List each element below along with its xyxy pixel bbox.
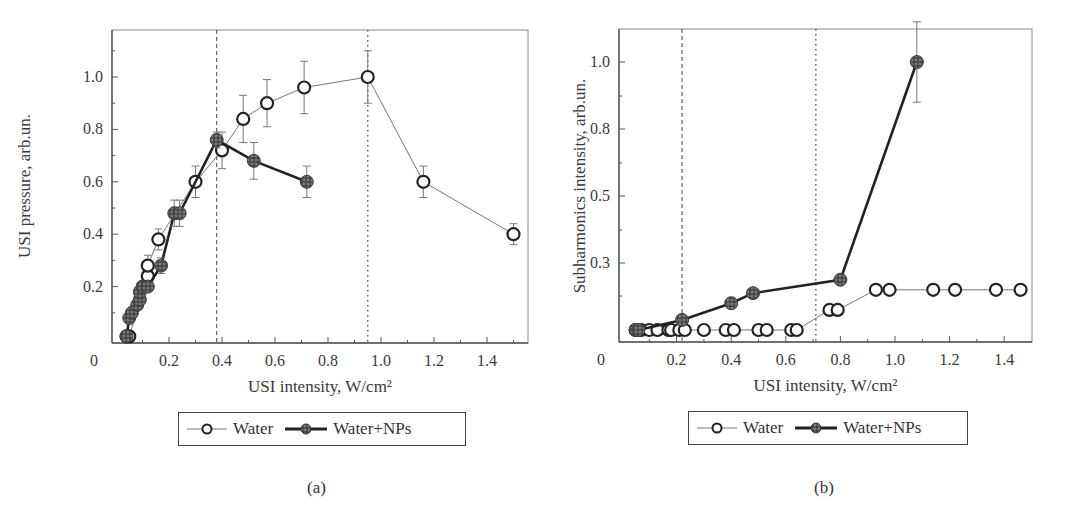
data-point-water	[1015, 284, 1027, 296]
y-axis-title: Subharmonics intensity, arb.un.	[570, 79, 589, 294]
data-point-water	[362, 71, 374, 83]
data-point-water	[142, 260, 154, 272]
data-point-water-nps	[910, 56, 923, 69]
data-point-water-nps	[300, 175, 313, 188]
x-tick-label: 0	[597, 351, 605, 368]
data-point-water-nps	[747, 287, 760, 300]
y-tick-label: 0.2	[83, 278, 103, 295]
caption-a: (a)	[307, 478, 326, 498]
caption-b: (b)	[814, 478, 834, 498]
data-point-water	[728, 324, 740, 336]
x-tick-label: 1.4	[994, 351, 1014, 368]
hatched-circle-marker-icon	[285, 422, 327, 436]
data-point-water-nps	[834, 273, 847, 286]
chart-panel-a: 00.20.40.60.81.01.21.40.20.40.60.81.0USI…	[15, 30, 528, 396]
data-point-water	[990, 284, 1002, 296]
data-point-water-nps	[173, 207, 186, 220]
open-circle-marker-icon	[697, 421, 737, 435]
data-point-water-nps	[141, 280, 154, 293]
y-tick-label: 1.0	[83, 68, 103, 85]
y-tick-label: 0.8	[83, 120, 103, 137]
y-tick-label: 0.4	[83, 225, 103, 242]
y-tick-label: 0.5	[590, 187, 610, 204]
data-point-water	[832, 304, 844, 316]
x-tick-label: 0.6	[265, 352, 285, 369]
legend-item-water-nps: Water+NPs	[285, 419, 411, 439]
y-tick-label: 1.0	[590, 53, 610, 70]
hatched-circle-marker-icon	[795, 421, 837, 435]
data-point-water	[949, 284, 961, 296]
data-point-water-nps	[725, 297, 738, 310]
data-point-water-nps	[247, 154, 260, 167]
data-point-water	[698, 324, 710, 336]
data-point-water	[152, 233, 164, 245]
data-point-water	[884, 284, 896, 296]
data-point-water	[237, 113, 249, 125]
plot-frame	[619, 29, 1032, 342]
y-axis-title: USI pressure, arb.un.	[15, 114, 34, 258]
x-axis-title: USI intensity, W/cm²	[248, 377, 392, 396]
legend-item-water: Water	[187, 419, 273, 439]
y-tick-label: 0.3	[590, 254, 610, 271]
data-point-water	[870, 284, 882, 296]
data-point-water	[927, 284, 939, 296]
data-point-water-nps	[632, 324, 645, 337]
data-point-water	[761, 324, 773, 336]
data-point-water	[298, 81, 310, 93]
data-point-water-nps	[210, 133, 223, 146]
legend-label-water: Water	[233, 419, 273, 439]
x-tick-label: 1.0	[885, 351, 905, 368]
x-tick-label: 0.2	[159, 352, 179, 369]
x-tick-label: 0.8	[830, 351, 850, 368]
y-tick-label: 0.6	[83, 173, 103, 190]
data-point-water-nps	[676, 313, 689, 326]
x-tick-label: 0.4	[212, 352, 232, 369]
legend-b: Water Water+NPs	[688, 411, 968, 445]
x-tick-label: 1.2	[940, 351, 960, 368]
chart-panel-b: 00.20.40.60.81.01.21.40.30.50.81.0USI in…	[570, 22, 1032, 395]
x-axis-title: USI intensity, W/cm²	[754, 376, 898, 395]
legend-item-water: Water	[697, 418, 783, 438]
x-tick-label: 0.2	[667, 351, 687, 368]
data-point-water-nps	[155, 259, 168, 272]
x-tick-label: 0.4	[721, 351, 741, 368]
data-point-water	[508, 228, 520, 240]
x-tick-label: 0.8	[318, 352, 338, 369]
legend-label-water-nps: Water+NPs	[333, 419, 411, 439]
open-circle-marker-icon	[187, 422, 227, 436]
data-point-water	[791, 324, 803, 336]
legend-label-water-nps: Water+NPs	[843, 418, 921, 438]
legend-a: Water Water+NPs	[178, 412, 466, 446]
x-tick-label: 1.2	[424, 352, 444, 369]
x-tick-label: 1.0	[371, 352, 391, 369]
y-tick-label: 0.8	[590, 120, 610, 137]
series-line-water	[127, 77, 514, 336]
legend-label-water: Water	[743, 418, 783, 438]
legend-item-water-nps: Water+NPs	[795, 418, 921, 438]
x-tick-label: 0	[90, 352, 98, 369]
data-point-water	[417, 176, 429, 188]
x-tick-label: 1.4	[477, 352, 497, 369]
data-point-water-nps	[120, 330, 133, 343]
x-tick-label: 0.6	[776, 351, 796, 368]
plot-frame	[112, 30, 528, 343]
data-point-water	[261, 97, 273, 109]
